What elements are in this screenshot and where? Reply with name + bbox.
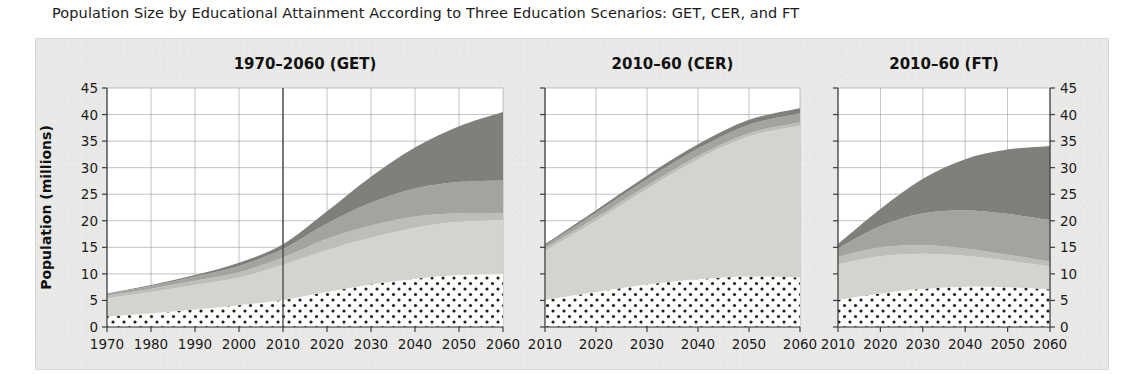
y-tick-label-left: 45 [81,80,98,96]
y-tick-label-right: 40 [1060,107,1077,123]
y-tick-label-left: 35 [81,133,98,149]
y-axis-left: 051015202530354045Population (millions) [38,80,98,335]
panel-get: 1970–2060 (GET)1970198019902000201020202… [90,55,520,352]
y-tick-label-right: 10 [1060,266,1077,282]
panel-title: 2010–60 (CER) [612,55,734,73]
x-tick-label: 2020 [863,336,897,352]
x-tick-label: 2040 [398,336,432,352]
x-tick-label: 2040 [681,336,715,352]
y-tick-label-left: 25 [81,186,98,202]
x-tick-label: 2050 [990,336,1024,352]
panel-title: 1970–2060 (GET) [234,55,377,73]
panel-title: 2010–60 (FT) [889,55,999,73]
x-tick-label: 2030 [906,336,940,352]
x-tick-label: 1990 [178,336,212,352]
x-tick-label: 2010 [821,336,855,352]
y-tick-label-right: 45 [1060,80,1077,96]
x-tick-label: 2060 [486,336,520,352]
y-tick-label-left: 15 [81,239,98,255]
x-tick-label: 2020 [579,336,613,352]
y-tick-label-left: 5 [89,292,98,308]
y-tick-label-right: 0 [1060,319,1069,335]
x-tick-label: 2050 [732,336,766,352]
x-tick-label: 1970 [90,336,124,352]
x-tick-label: 2050 [442,336,476,352]
panel-ft: 2010–60 (FT)201020202030204020502060 [821,55,1067,352]
figure-root: Population Size by Educational Attainmen… [0,0,1144,385]
y-tick-label-left: 20 [81,213,98,229]
x-tick-label: 1980 [134,336,168,352]
x-tick-label: 2010 [528,336,562,352]
y-tick-label-right: 25 [1060,186,1077,202]
y-tick-label-right: 30 [1060,160,1077,176]
y-tick-label-left: 30 [81,160,98,176]
y-axis-title: Population (millions) [38,125,54,290]
y-axis-right: 051015202530354045 [1050,80,1077,335]
y-tick-label-left: 0 [89,319,98,335]
x-tick-label: 2060 [783,336,817,352]
y-tick-label-right: 5 [1060,292,1069,308]
x-tick-label: 2000 [222,336,256,352]
x-tick-label: 2020 [310,336,344,352]
x-tick-label: 2040 [948,336,982,352]
panel-cer: 2010–60 (CER)201020202030204020502060 [528,55,817,352]
x-tick-label: 2030 [354,336,388,352]
y-tick-label-right: 35 [1060,133,1077,149]
y-tick-label-left: 10 [81,266,98,282]
y-tick-label-right: 20 [1060,213,1077,229]
x-tick-label: 2010 [266,336,300,352]
stacked-area-chart: 1970–2060 (GET)1970198019902000201020202… [0,0,1144,385]
y-tick-label-right: 15 [1060,239,1077,255]
y-tick-label-left: 40 [81,107,98,123]
x-tick-label: 2060 [1033,336,1067,352]
x-tick-label: 2030 [630,336,664,352]
